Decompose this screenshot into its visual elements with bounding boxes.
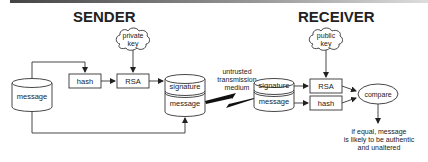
- receiver-hash-label: hash: [318, 99, 334, 108]
- private-key-cloud: private key: [116, 28, 149, 50]
- sender-message-cylinder: message: [12, 79, 52, 112]
- receiver-signed-message-cylinder: signature message: [254, 79, 294, 112]
- receiver-rsa-box: RSA: [310, 79, 342, 93]
- private-key-label-line2: key: [128, 40, 139, 48]
- result-line2: is likely to be authentic: [344, 136, 415, 144]
- receiver-rsa-label: RSA: [318, 82, 333, 91]
- sender-message-label: message: [17, 92, 47, 101]
- sender-signature-label: signature: [170, 82, 201, 91]
- receiver-title: RECEIVER: [298, 8, 375, 25]
- compare-node: compare: [358, 84, 398, 104]
- lightning-bolt-icon: [205, 93, 254, 108]
- public-key-label-line1: public: [317, 32, 336, 40]
- receiver-signature-label: signature: [259, 81, 290, 90]
- hash-to-compare-arrow: [342, 98, 356, 103]
- sender-rsa-box: RSA: [117, 74, 149, 88]
- receiver-message-label: message: [259, 97, 289, 106]
- digital-signature-diagram: SENDER RECEIVER message hash RSA private…: [0, 0, 428, 162]
- channel-label-line2: transmission: [217, 76, 256, 83]
- sender-rsa-label: RSA: [125, 77, 140, 86]
- sender-signed-message-cylinder: signature message: [165, 75, 205, 117]
- sender-hash-label: hash: [77, 77, 93, 86]
- sender-signed-message-label: message: [170, 99, 200, 108]
- public-key-label-line2: key: [321, 40, 332, 48]
- message-to-signed-message-arrow: [32, 112, 185, 134]
- rsa-to-compare-arrow: [342, 86, 356, 91]
- channel-label-line1: untrusted: [222, 68, 251, 75]
- sender-title: SENDER: [73, 8, 136, 25]
- channel-label-line3: medium: [225, 84, 250, 91]
- result-line3: and unaltered: [358, 144, 401, 151]
- receiver-hash-box: hash: [310, 96, 342, 110]
- result-line1: if equal, message: [352, 128, 407, 136]
- public-key-cloud: public key: [309, 28, 342, 50]
- private-key-label-line1: private: [122, 32, 143, 40]
- sender-hash-box: hash: [69, 74, 101, 88]
- compare-label: compare: [364, 91, 391, 99]
